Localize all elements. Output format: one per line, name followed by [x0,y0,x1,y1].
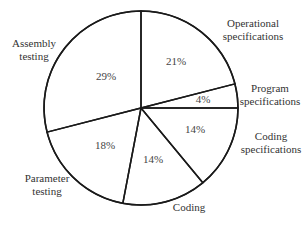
percent-label: 29% [96,70,116,82]
percent-label: 14% [185,123,205,135]
category-label: Coding [173,201,206,213]
percent-label: 21% [166,55,186,67]
percent-label: 18% [95,139,115,151]
category-label: Assemblytesting [12,37,57,62]
category-label: Parametertesting [25,172,70,197]
pie-slices [44,11,238,205]
category-label: Codingspecifications [241,130,301,155]
category-label: Programspecifications [240,82,300,107]
category-label: Operationalspecifications [223,17,283,42]
pie-chart: 21%4%14%14%18%29% Operationalspecificati… [0,0,307,226]
percent-label: 4% [196,93,211,105]
percent-label: 14% [143,153,163,165]
